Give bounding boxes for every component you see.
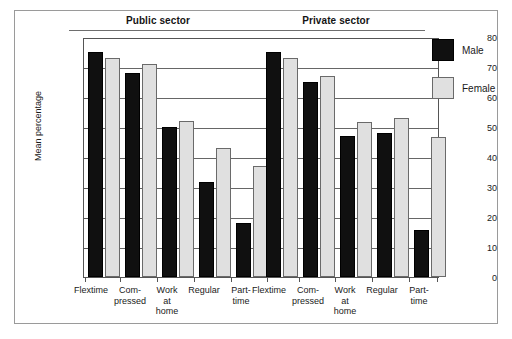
bar-public-compressed-male — [125, 73, 140, 277]
bar-private-regular-female — [394, 118, 409, 277]
y-tick-label: 40 — [453, 153, 497, 163]
bar-private-flextime-male — [266, 52, 281, 277]
y-axis-title: Mean percentage — [33, 91, 43, 161]
legend-swatch-female — [432, 77, 454, 99]
x-tick — [409, 277, 410, 282]
bar-private-work-at-home-female — [357, 122, 372, 277]
y-tick-label: 30 — [453, 183, 497, 193]
bar-public-flextime-male — [88, 52, 103, 277]
group-rule-private — [247, 30, 425, 31]
x-tick — [335, 277, 336, 282]
y-tick-label: 80 — [453, 33, 497, 43]
x-category-public-flextime: Flextime — [69, 285, 113, 296]
x-category-private-part-time: Part- time — [397, 285, 441, 306]
gridline-70 — [84, 68, 438, 69]
bar-private-regular-male — [377, 133, 392, 277]
bar-public-work-at-home-male — [162, 127, 177, 277]
bar-private-compressed-male — [303, 82, 318, 277]
legend-label-male: Male — [462, 45, 484, 56]
y-tick-label: 20 — [453, 213, 497, 223]
x-tick — [231, 277, 232, 282]
x-tick — [437, 277, 438, 282]
group-title-private: Private sector — [247, 15, 425, 26]
x-tick — [120, 277, 121, 282]
x-tick — [85, 277, 86, 282]
bar-public-flextime-female — [105, 58, 120, 277]
bar-public-part-time-male — [236, 223, 251, 277]
plot-area — [83, 38, 439, 278]
bar-private-compressed-female — [320, 76, 335, 277]
bar-public-regular-female — [216, 148, 231, 277]
x-tick — [299, 277, 300, 282]
bar-public-regular-male — [199, 182, 214, 277]
legend-label-female: Female — [462, 83, 495, 94]
x-tick — [194, 277, 195, 282]
bar-public-compressed-female — [142, 64, 157, 277]
x-category-private-flextime: Flextime — [247, 285, 291, 296]
bar-public-work-at-home-female — [179, 121, 194, 277]
figure-frame: Public sector Private sector Mean percen… — [14, 10, 498, 324]
bar-private-work-at-home-male — [340, 136, 355, 277]
group-rule-public — [69, 30, 247, 31]
y-tick-label: 0 — [453, 273, 497, 283]
y-tick-label: 50 — [453, 123, 497, 133]
y-tick-label: 70 — [453, 63, 497, 73]
bar-private-flextime-female — [283, 58, 298, 277]
y-tick-label: 10 — [453, 243, 497, 253]
group-title-public: Public sector — [69, 15, 247, 26]
y-tick-label: 60 — [453, 93, 497, 103]
legend-swatch-male — [432, 39, 454, 61]
x-tick — [157, 277, 158, 282]
x-tick — [372, 277, 373, 282]
bar-private-part-time-female — [431, 137, 446, 277]
x-tick — [267, 277, 268, 282]
bar-private-part-time-male — [414, 230, 429, 277]
